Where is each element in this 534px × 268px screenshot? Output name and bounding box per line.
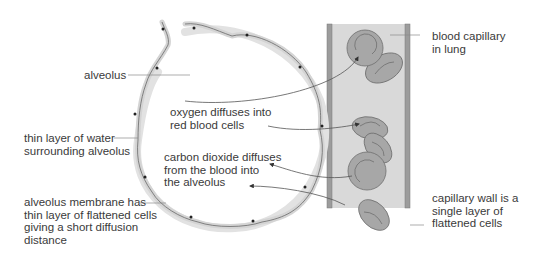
red-blood-cell: [347, 30, 383, 66]
capillary-wall-right: [405, 24, 410, 208]
label-co2: carbon dioxide diffuses from the blood i…: [164, 151, 281, 189]
label-water-layer: thin layer of water surrounding alveolus: [24, 132, 130, 157]
red-blood-cell: [348, 152, 386, 190]
label-capillary: blood capillary in lung: [432, 30, 506, 55]
label-oxygen: oxygen diffuses into red blood cells: [170, 106, 271, 131]
label-membrane: alveolus membrane has thin layer of flat…: [24, 196, 157, 246]
label-capillary-wall: capillary wall is a single layer of flat…: [432, 192, 518, 230]
label-alveolus: alveolus: [84, 69, 126, 82]
